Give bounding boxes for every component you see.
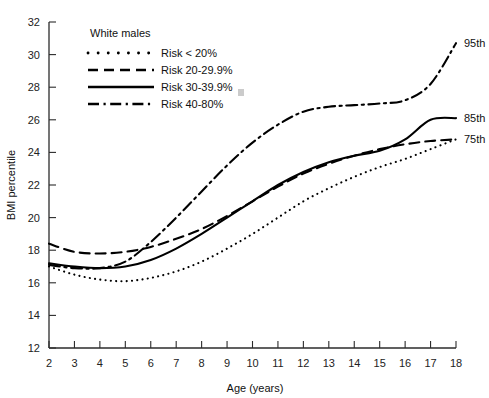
y-axis-tick-label: 22 <box>28 179 40 191</box>
y-axis-tick-label: 32 <box>28 16 40 28</box>
x-axis-tick-label: 17 <box>424 357 436 369</box>
x-axis-tick-label: 14 <box>348 357 360 369</box>
legend-label-1: Risk 20-29.9% <box>161 64 233 76</box>
y-axis-tick-label: 30 <box>28 49 40 61</box>
y-axis-tick-group: 1214161820222426283032 <box>28 16 56 354</box>
x-axis-tick-label: 7 <box>173 357 179 369</box>
x-axis-tick-label: 15 <box>374 357 386 369</box>
y-axis-tick-label: 14 <box>28 309 40 321</box>
curve-series-1 <box>49 139 456 253</box>
curve-series-3 <box>49 43 456 269</box>
curve-end-label: 75th <box>464 133 485 145</box>
legend-title: White males <box>90 27 151 39</box>
x-axis-tick-label: 12 <box>297 357 309 369</box>
y-axis-tick-label: 26 <box>28 114 40 126</box>
y-axis-tick-label: 16 <box>28 277 40 289</box>
scan-artifact <box>238 89 244 96</box>
x-axis-tick-label: 5 <box>122 357 128 369</box>
x-axis-tick-label: 11 <box>272 357 283 369</box>
legend: White males Risk < 20%Risk 20-29.9%Risk … <box>88 27 233 110</box>
y-axis-tick-label: 24 <box>28 146 40 158</box>
x-axis-title: Age (years) <box>227 382 284 394</box>
x-axis-tick-label: 18 <box>450 357 462 369</box>
chart-container: 1214161820222426283032 23456789101112131… <box>0 0 489 398</box>
bmi-percentile-line-chart: 1214161820222426283032 23456789101112131… <box>0 0 489 398</box>
curve-series-0 <box>49 139 456 281</box>
curve-end-label-group: 95th85th75th <box>464 37 485 145</box>
legend-item-group: Risk < 20%Risk 20-29.9%Risk 30-39.9%Risk… <box>88 47 233 110</box>
x-axis-tick-label: 2 <box>46 357 52 369</box>
data-curve-group <box>49 43 456 281</box>
y-axis-tick-label: 18 <box>28 244 40 256</box>
curve-end-label: 95th <box>464 37 485 49</box>
x-axis-tick-label: 4 <box>97 357 103 369</box>
x-axis-tick-label: 8 <box>199 357 205 369</box>
curve-series-2 <box>49 118 456 268</box>
x-axis-tick-label: 3 <box>71 357 77 369</box>
legend-label-0: Risk < 20% <box>161 47 217 59</box>
y-axis-title: BMI percentile <box>5 150 17 220</box>
x-axis-tick-label: 10 <box>246 357 258 369</box>
legend-label-3: Risk 40-80% <box>161 98 224 110</box>
y-axis-tick-label: 12 <box>28 342 40 354</box>
x-axis-tick-label: 16 <box>399 357 411 369</box>
curve-end-label: 85th <box>464 112 485 124</box>
x-axis-tick-label: 6 <box>148 357 154 369</box>
x-axis-tick-label: 9 <box>224 357 230 369</box>
y-axis-tick-label: 20 <box>28 212 40 224</box>
x-axis-tick-group: 23456789101112131415161718 <box>46 341 462 369</box>
legend-label-2: Risk 30-39.9% <box>161 81 233 93</box>
x-axis-tick-label: 13 <box>323 357 335 369</box>
y-axis-tick-label: 28 <box>28 81 40 93</box>
